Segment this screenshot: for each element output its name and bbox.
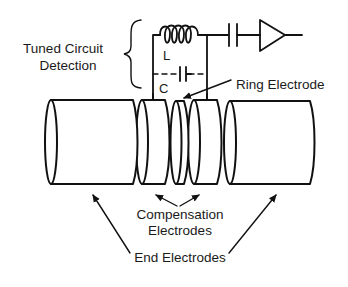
end-electrode-arrow-left xyxy=(93,195,130,253)
ring-electrode-label: Ring Electrode xyxy=(236,77,325,92)
inductor-coil-icon xyxy=(160,26,198,43)
ring-electrode xyxy=(171,101,189,184)
compensation-label-line1: Compensation xyxy=(136,207,223,222)
compensation-label-line2: Electrodes xyxy=(148,223,212,238)
end-electrode-right xyxy=(224,101,315,184)
amplifier-icon xyxy=(260,20,285,51)
curly-brace xyxy=(124,20,141,88)
inductor-label: L xyxy=(163,48,170,63)
end-electrode-left xyxy=(45,100,138,184)
capacitor-label: C xyxy=(159,81,168,96)
tuned-circuit-label-line2: Detection xyxy=(39,58,96,73)
compensation-arrow-right xyxy=(180,195,199,206)
compensation-arrow-left xyxy=(156,195,177,206)
compensation-electrode-right xyxy=(188,100,222,184)
coupling-capacitor-icon xyxy=(229,24,237,46)
end-electrode-arrow-right xyxy=(229,195,276,253)
penning-trap-diagram: Tuned Circuit Detection L C Ring Electro… xyxy=(0,0,348,287)
compensation-electrode-left xyxy=(136,100,170,184)
tuned-circuit-label-line1: Tuned Circuit xyxy=(23,41,103,56)
tuning-capacitor-icon xyxy=(180,67,191,81)
end-electrodes-label: End Electrodes xyxy=(134,250,226,265)
